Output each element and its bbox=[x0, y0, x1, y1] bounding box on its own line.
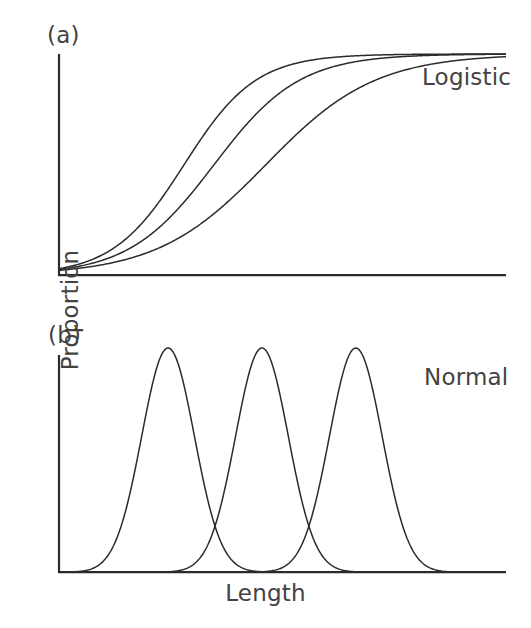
y-axis-label: Proportion bbox=[50, 210, 90, 410]
y-axis-label-wrap: Proportion bbox=[50, 210, 90, 410]
panel-a-series-label: Logistic bbox=[422, 64, 511, 90]
panel-a-tag: (a) bbox=[47, 22, 80, 48]
figure-container: (a) (b) Logistic Normal Length Proportio… bbox=[0, 0, 531, 628]
panel-b-series-label: Normal bbox=[424, 364, 508, 390]
x-axis-label: Length bbox=[0, 580, 531, 606]
